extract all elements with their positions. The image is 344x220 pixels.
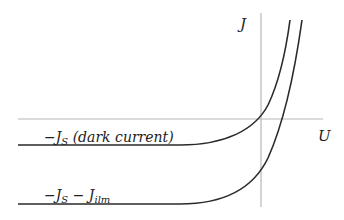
illuminated-curve — [18, 20, 302, 204]
dark-current-label: −JS (dark current) — [44, 129, 174, 147]
y-axis-label: J — [237, 15, 247, 33]
dark-current-curve — [18, 20, 290, 145]
x-axis-label: U — [318, 127, 332, 145]
iv-diagram: J U −JS (dark current) −JS − Jilm — [0, 0, 344, 220]
illuminated-label: −JS − Jilm — [44, 187, 110, 205]
